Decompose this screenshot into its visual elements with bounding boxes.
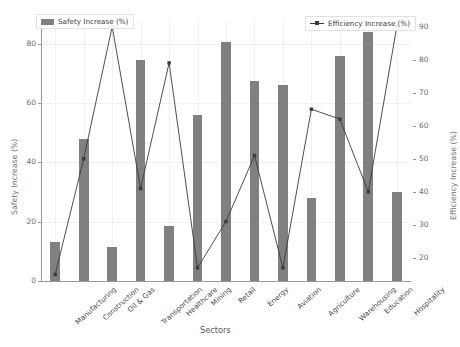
line-marker-retail[interactable] xyxy=(224,220,227,223)
legend-efficiency[interactable]: Efficiency Increase (%) xyxy=(305,16,416,31)
y-tick-mark-right xyxy=(413,258,416,259)
chart-container: 020406080 2030405060708090 Manufacturing… xyxy=(0,0,460,347)
line-marker-aviation[interactable] xyxy=(281,266,284,269)
y-tick-label-left: 20 xyxy=(14,217,36,226)
y-tick-label-right: 70 xyxy=(419,88,429,97)
y-tick-mark-left xyxy=(38,222,41,223)
y-tick-label-left: 0 xyxy=(14,276,36,285)
y-tick-label-right: 30 xyxy=(419,220,429,229)
line-marker-transportation[interactable] xyxy=(139,187,142,190)
line-marker-energy[interactable] xyxy=(253,154,256,157)
y-tick-mark-right xyxy=(413,60,416,61)
y-tick-mark-right xyxy=(413,126,416,127)
plot-area xyxy=(41,20,411,281)
y-tick-mark-right xyxy=(413,159,416,160)
legend-efficiency-label: Efficiency Increase (%) xyxy=(328,19,410,28)
line-marker-education[interactable] xyxy=(367,190,370,193)
y-tick-mark-left xyxy=(38,103,41,104)
x-axis-spine xyxy=(41,281,411,282)
y-tick-label-right: 20 xyxy=(419,253,429,262)
legend-bar-swatch-icon xyxy=(41,19,54,25)
x-tick-label-retail: Retail xyxy=(236,285,257,305)
y-tick-label-right: 60 xyxy=(419,121,429,130)
x-tick-label-agriculture: Agriculture xyxy=(327,285,362,318)
legend-line-marker-icon xyxy=(310,20,324,27)
line-marker-agriculture[interactable] xyxy=(310,108,313,111)
x-tick-label-aviation: Aviation xyxy=(295,285,323,311)
legend-safety-label: Safety Increase (%) xyxy=(58,17,128,26)
y-tick-mark-left xyxy=(38,162,41,163)
y-tick-label-left: 60 xyxy=(14,98,36,107)
y-tick-label-right: 80 xyxy=(419,55,429,64)
efficiency-polyline xyxy=(55,27,397,275)
y-tick-mark-left xyxy=(38,281,41,282)
x-tick-label-energy: Energy xyxy=(266,285,291,309)
y-tick-mark-right xyxy=(413,225,416,226)
y-tick-label-right: 90 xyxy=(419,22,429,31)
y-axis-left-title: Safety Increase (%) xyxy=(10,139,19,215)
y-tick-mark-right xyxy=(413,192,416,193)
line-marker-healthcare[interactable] xyxy=(167,61,170,64)
line-marker-construction[interactable] xyxy=(82,157,85,160)
x-axis-title: Sectors xyxy=(200,325,231,335)
line-marker-manufacturing[interactable] xyxy=(54,273,57,276)
legend-safety[interactable]: Safety Increase (%) xyxy=(36,14,134,29)
y-axis-right-title: Efficiency Increase (%) xyxy=(449,131,458,220)
y-axis-left-spine xyxy=(41,20,42,281)
efficiency-line-series xyxy=(41,20,411,281)
x-tick-label-hospitality: Hospitality xyxy=(412,285,447,317)
y-tick-label-right: 50 xyxy=(419,154,429,163)
y-tick-mark-left xyxy=(38,44,41,45)
y-tick-label-right: 40 xyxy=(419,187,429,196)
line-marker-warehousing[interactable] xyxy=(338,117,341,120)
y-tick-mark-right xyxy=(413,93,416,94)
line-marker-mining[interactable] xyxy=(196,266,199,269)
y-tick-label-left: 80 xyxy=(14,39,36,48)
